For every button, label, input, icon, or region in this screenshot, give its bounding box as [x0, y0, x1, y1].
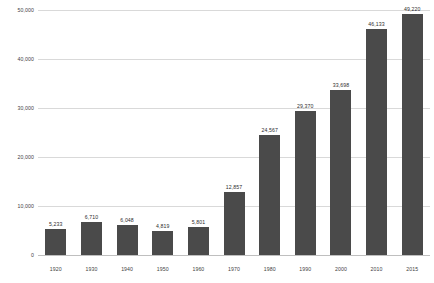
bar-slot: 4,819 — [145, 10, 181, 255]
bar-slot: 6,048 — [109, 10, 145, 255]
x-axis-tick-slot: 2015 — [394, 257, 430, 271]
bar-value-label: 29,370 — [297, 103, 313, 109]
y-axis-tick: 40,000 — [18, 56, 34, 62]
x-axis-tick-slot: 1940 — [109, 257, 145, 271]
bar[interactable] — [81, 222, 102, 255]
bar[interactable] — [188, 227, 209, 255]
y-axis-tick: 50,000 — [18, 7, 34, 13]
x-axis-tick-slot: 1990 — [287, 257, 323, 271]
x-axis-tick: 2000 — [335, 266, 347, 272]
x-axis-tick-slot: 1920 — [38, 257, 74, 271]
bar-slot: 6,710 — [74, 10, 110, 255]
gridline — [38, 255, 430, 256]
y-axis-tick: 20,000 — [18, 154, 34, 160]
bar-value-label: 5,233 — [49, 221, 62, 227]
bar[interactable] — [152, 231, 173, 255]
y-axis-tick: 30,000 — [18, 105, 34, 111]
bar[interactable] — [117, 225, 138, 255]
bar-slot: 49,220 — [394, 10, 430, 255]
bar-chart: 010,00020,00030,00040,00050,000 5,2336,7… — [0, 0, 434, 283]
x-axis-tick-slot: 1970 — [216, 257, 252, 271]
bar-slot: 29,370 — [287, 10, 323, 255]
x-axis-tick-slot: 2000 — [323, 257, 359, 271]
bar-series: 5,2336,7106,0484,8195,80112,85724,56729,… — [38, 10, 430, 255]
x-axis-tick: 1950 — [157, 266, 169, 272]
x-axis-tick-slot: 2010 — [359, 257, 395, 271]
x-axis-tick: 2010 — [371, 266, 383, 272]
bar-value-label: 24,567 — [261, 127, 277, 133]
bar-slot: 46,133 — [359, 10, 395, 255]
plot-area: 010,00020,00030,00040,00050,000 5,2336,7… — [38, 10, 430, 255]
bar-value-label: 12,857 — [226, 184, 242, 190]
y-axis-tick: 10,000 — [18, 203, 34, 209]
bar-value-label: 49,220 — [404, 6, 420, 12]
x-axis-tick-slot: 1980 — [252, 257, 288, 271]
bar[interactable] — [295, 111, 316, 255]
x-axis-tick: 1930 — [85, 266, 97, 272]
bar-value-label: 33,698 — [333, 82, 349, 88]
bar[interactable] — [259, 135, 280, 255]
x-axis-tick: 1920 — [50, 266, 62, 272]
bar-value-label: 46,133 — [368, 21, 384, 27]
bar-value-label: 5,801 — [192, 219, 205, 225]
bar-slot: 33,698 — [323, 10, 359, 255]
x-axis-tick-labels: 1920193019401950196019701980199020002010… — [38, 257, 430, 271]
bar-value-label: 6,048 — [120, 217, 133, 223]
bar-slot: 24,567 — [252, 10, 288, 255]
x-axis-tick: 2015 — [406, 266, 418, 272]
bar-slot: 5,801 — [181, 10, 217, 255]
bar[interactable] — [45, 229, 66, 255]
bar[interactable] — [366, 29, 387, 255]
bar-slot: 12,857 — [216, 10, 252, 255]
x-axis-tick: 1960 — [192, 266, 204, 272]
x-axis-tick-slot: 1930 — [74, 257, 110, 271]
x-axis-tick: 1940 — [121, 266, 133, 272]
y-axis-tick: 0 — [31, 252, 34, 258]
bar-slot: 5,233 — [38, 10, 74, 255]
x-axis-tick-slot: 1950 — [145, 257, 181, 271]
x-axis-tick: 1990 — [299, 266, 311, 272]
x-axis-tick-slot: 1960 — [181, 257, 217, 271]
x-axis-tick: 1970 — [228, 266, 240, 272]
bar-value-label: 6,710 — [85, 214, 98, 220]
bar[interactable] — [224, 192, 245, 255]
bar[interactable] — [402, 14, 423, 255]
bar[interactable] — [330, 90, 351, 255]
x-axis-tick: 1980 — [264, 266, 276, 272]
bar-value-label: 4,819 — [156, 223, 169, 229]
